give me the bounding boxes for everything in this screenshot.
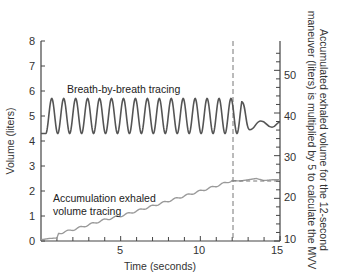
y-tick-7: 7 xyxy=(29,60,35,72)
y-axis-title: Volume (liters) xyxy=(4,107,16,174)
y-tick-3: 3 xyxy=(29,160,35,172)
y-tick-8: 8 xyxy=(29,35,35,47)
y-tick-5: 5 xyxy=(29,110,35,122)
x-axis-title: Time (seconds) xyxy=(124,260,196,272)
yr-tick-10: 10 xyxy=(284,233,296,245)
annotation-accumulation-line1: Accumulation exhaled xyxy=(53,192,156,204)
yr-tick-30: 30 xyxy=(284,151,296,163)
y-tick-0: 0 xyxy=(29,235,35,247)
y-tick-1: 1 xyxy=(29,210,35,222)
x-tick-15: 15 xyxy=(271,244,283,256)
right-y-axis-title-line2: maneuver (liters) is multiplied by 5 to … xyxy=(306,11,318,270)
right-y-axis-title-line1: Accumulated exhaled volume for the 12-se… xyxy=(318,29,330,251)
x-tick-5: 5 xyxy=(117,244,123,256)
yr-tick-40: 40 xyxy=(284,110,296,122)
x-tick-10: 10 xyxy=(193,244,205,256)
y-tick-4: 4 xyxy=(29,135,35,147)
y-tick-2: 2 xyxy=(29,185,35,197)
annotation-accumulation-line2: volume tracing xyxy=(53,205,121,217)
chart-canvas: 0 1 2 3 4 5 6 7 8 5 10 15 10 20 30 40 50… xyxy=(0,0,338,280)
breath-by-breath-line xyxy=(41,99,280,134)
y-tick-6: 6 xyxy=(29,85,35,97)
yr-tick-20: 20 xyxy=(284,191,296,203)
yr-tick-50: 50 xyxy=(284,69,296,81)
annotation-breath-by-breath: Breath-by-breath tracing xyxy=(67,83,180,95)
